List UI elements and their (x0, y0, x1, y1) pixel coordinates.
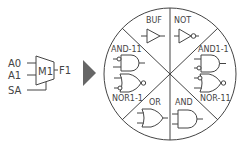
nor-gate-icon (200, 74, 221, 92)
mux-output-label: F1 (59, 65, 71, 76)
nor-gate-icon (120, 74, 141, 92)
or-gate-icon (142, 109, 163, 127)
and-gate-icon (121, 55, 139, 71)
sector-nor-11: NOR-11 (194, 74, 231, 103)
sector-not: NOT (174, 16, 199, 43)
mux-input-a1-label: A1 (8, 70, 21, 81)
sector-buf: BUF (141, 16, 165, 43)
mux-select-label: SA (8, 85, 22, 96)
and-gate-icon (201, 55, 220, 72)
sector-label-and1-1: AND1-1 (198, 45, 229, 54)
mux-symbol: M1 A0 A1 SA F1 (8, 56, 71, 96)
sector-label-and: AND (175, 98, 193, 107)
sector-and: AND (172, 98, 203, 128)
sector-and1-1: AND1-1 (194, 45, 229, 72)
sector-label-nor-11: NOR-11 (200, 94, 231, 103)
mux-input-a0-label: A0 (8, 58, 21, 69)
sector-and-11: AND-11 (111, 45, 145, 71)
and-gate-icon (178, 110, 197, 128)
buffer-gate-icon (147, 29, 160, 43)
sector-label-and-11: AND-11 (111, 45, 142, 54)
not-gate-icon (179, 29, 191, 43)
mux-name: M1 (38, 66, 53, 77)
sector-label-or: OR (149, 98, 161, 107)
sector-nor1-1: NOR1-1 (112, 74, 146, 103)
right-triangle-arrow-icon (83, 60, 96, 86)
sector-label-nor1-1: NOR1-1 (112, 94, 143, 103)
sector-label-buf: BUF (146, 16, 162, 25)
sector-label-not: NOT (174, 16, 191, 25)
logic-wheel-diagram: M1 A0 A1 SA F1 BUF NOT AND-11 (0, 0, 246, 150)
